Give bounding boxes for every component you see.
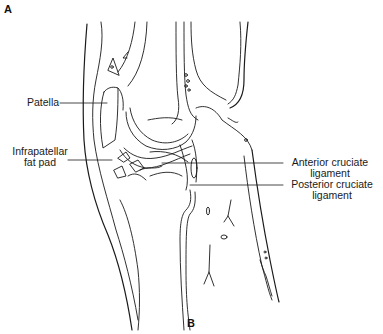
- femoral-condyle: [126, 112, 196, 149]
- label-posterior-cruciate-ligament: Posterior cruciate ligament: [283, 179, 381, 201]
- quadriceps-tendon: [118, 22, 135, 72]
- label-anterior-cruciate-ligament: Anterior cruciate ligament: [284, 157, 376, 179]
- meniscus: [124, 146, 192, 159]
- patella-body: [100, 87, 118, 148]
- label-pcl-line2: ligament: [283, 190, 381, 201]
- label-patella: Patella: [27, 97, 59, 108]
- knee-anatomy-figure: A B: [0, 0, 383, 334]
- vessel-branch: [224, 200, 234, 226]
- label-infrapatellar-fat-pad: Infrapatellar fat pad: [9, 146, 71, 168]
- pcl-band: [180, 145, 187, 190]
- femur-anterior-cortex: [172, 22, 179, 124]
- label-infrapatellar-line2: fat pad: [9, 157, 71, 168]
- femur-posterior-cortex: [230, 22, 248, 108]
- anterior-soft-tissue-line: [93, 22, 138, 320]
